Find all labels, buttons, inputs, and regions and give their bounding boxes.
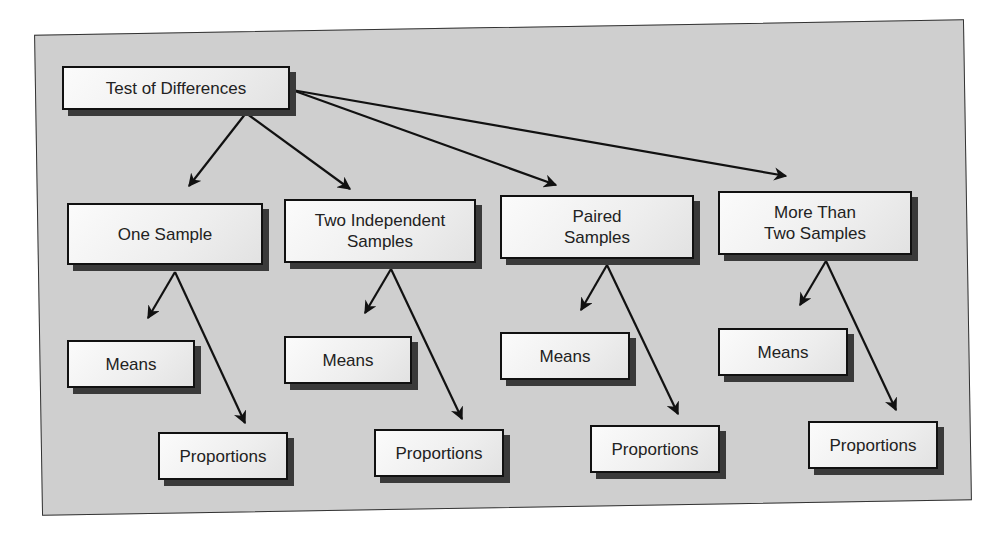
node-label: Means xyxy=(322,350,373,371)
node-one-sample-proportions: Proportions xyxy=(158,432,288,480)
node-label: Means xyxy=(539,346,590,367)
node-two-independent-means: Means xyxy=(284,336,412,384)
node-label: More Than Two Samples xyxy=(764,202,866,244)
node-label: Test of Differences xyxy=(106,78,246,99)
node-label: Proportions xyxy=(612,439,699,460)
diagram-canvas: Test of Differences One Sample Means Pro… xyxy=(0,0,990,543)
node-one-sample-means: Means xyxy=(67,340,195,388)
node-label: Proportions xyxy=(180,446,267,467)
node-two-independent-proportions: Proportions xyxy=(374,429,504,477)
node-label: Proportions xyxy=(830,435,917,456)
node-paired-means: Means xyxy=(500,332,630,380)
node-more-than-two-proportions: Proportions xyxy=(808,421,938,469)
node-test-of-differences: Test of Differences xyxy=(62,66,290,110)
node-one-sample: One Sample xyxy=(67,203,263,265)
node-paired-samples: Paired Samples xyxy=(500,195,694,259)
node-two-independent-samples: Two Independent Samples xyxy=(284,199,476,263)
node-more-than-two-samples: More Than Two Samples xyxy=(718,191,912,255)
node-label: Means xyxy=(105,354,156,375)
node-more-than-two-means: Means xyxy=(718,328,848,376)
node-label: Two Independent Samples xyxy=(315,210,445,252)
node-label: Proportions xyxy=(396,443,483,464)
node-label: One Sample xyxy=(118,224,213,245)
node-label: Means xyxy=(757,342,808,363)
node-paired-proportions: Proportions xyxy=(590,425,720,473)
node-label: Paired Samples xyxy=(564,206,630,248)
